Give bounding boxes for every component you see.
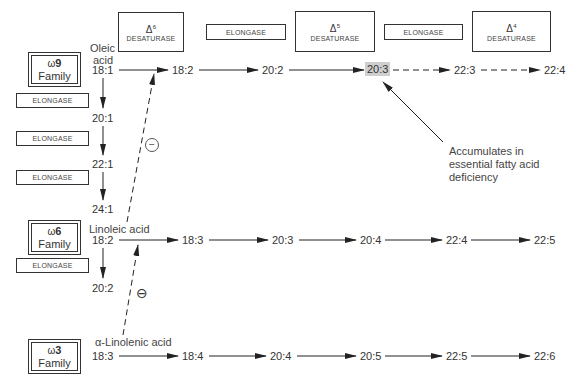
alpha-linolenic-acid-label: α-Linolenic acid — [95, 336, 172, 348]
w9-node-20-3-highlighted: 20:3 — [365, 62, 390, 76]
elongase-box-top-1: ELONGASE — [206, 24, 286, 40]
w3-node-22-5: 22:5 — [446, 350, 467, 362]
elongase-label: ELONGASE — [226, 29, 266, 36]
w3-node-18-4: 18:4 — [182, 350, 203, 362]
delta6-label: DESATURASE — [127, 35, 176, 42]
omega9-family-box: ω9 Family — [28, 52, 81, 87]
w3-node-18-3: 18:3 — [92, 350, 113, 362]
elongase-box-w9-1: ELONGASE — [16, 93, 89, 108]
w6-node-20-3: 20:3 — [272, 234, 293, 246]
omega6-symbol: ω6 — [48, 225, 62, 238]
w9-node-18-2: 18:2 — [172, 64, 193, 76]
elongase-box-w9-3: ELONGASE — [16, 170, 89, 185]
w6-node-22-5: 22:5 — [534, 234, 555, 246]
w9-node-18-1: 18:1 — [92, 64, 113, 76]
family-label: Family — [38, 238, 70, 250]
w6-node-20-2: 20:2 — [92, 282, 113, 294]
w6-node-22-4: 22:4 — [446, 234, 467, 246]
w6-node-18-3: 18:3 — [182, 234, 203, 246]
fatty-acid-desaturation-diagram: Δ6 DESATURASE ELONGASE Δ5 DESATURASE ELO… — [0, 0, 584, 387]
w9-node-22-1: 22:1 — [92, 158, 113, 170]
w6-node-18-2: 18:2 — [92, 234, 113, 246]
inhibition-minus-circle-icon: − — [145, 138, 159, 152]
w6-node-20-4: 20:4 — [360, 234, 381, 246]
delta5-symbol: Δ5 — [330, 21, 340, 34]
w3-node-20-4: 20:4 — [270, 350, 291, 362]
delta5-label: DESATURASE — [311, 35, 360, 42]
elongase-label: ELONGASE — [32, 135, 72, 142]
elongase-label: ELONGASE — [32, 97, 72, 104]
delta4-desaturase-box: Δ4 DESATURASE — [472, 11, 551, 52]
delta6-desaturase-box: Δ6 DESATURASE — [118, 12, 184, 52]
w3-node-22-6: 22:6 — [534, 350, 555, 362]
w9-node-20-2: 20:2 — [262, 64, 283, 76]
w9-node-20-1: 20:1 — [92, 112, 113, 124]
omega6-family-box: ω6 Family — [28, 220, 81, 255]
inhibition-minus-circle-icon-lower: ⊖ — [136, 286, 148, 300]
oleic-acid-label-line1: Oleic — [90, 42, 115, 54]
omega9-symbol: ω9 — [48, 57, 62, 70]
elongase-label: ELONGASE — [32, 174, 72, 181]
family-label: Family — [38, 70, 70, 82]
elongase-box-top-2: ELONGASE — [384, 24, 463, 40]
delta4-label: DESATURASE — [487, 35, 536, 42]
elongase-box-w6: ELONGASE — [16, 258, 89, 273]
pathway-arrows — [0, 0, 584, 387]
w9-node-22-4: 22:4 — [544, 64, 565, 76]
elongase-label: ELONGASE — [403, 29, 443, 36]
annotation-line-3: deficiency — [449, 171, 540, 184]
annotation-line-2: essential fatty acid — [449, 158, 540, 171]
w9-node-24-1: 24:1 — [92, 203, 113, 215]
omega3-symbol: ω3 — [48, 344, 62, 357]
delta4-symbol: Δ4 — [506, 21, 516, 34]
delta6-symbol: Δ6 — [146, 22, 156, 35]
annotation-line-1: Accumulates in — [449, 145, 540, 158]
delta5-desaturase-box: Δ5 DESATURASE — [295, 11, 375, 52]
elongase-label: ELONGASE — [32, 262, 72, 269]
accumulation-annotation: Accumulates in essential fatty acid defi… — [449, 145, 540, 184]
family-label: Family — [38, 357, 70, 369]
w3-node-20-5: 20:5 — [360, 350, 381, 362]
w9-node-22-3: 22:3 — [454, 64, 475, 76]
omega3-family-box: ω3 Family — [28, 339, 81, 374]
elongase-box-w9-2: ELONGASE — [16, 131, 89, 146]
